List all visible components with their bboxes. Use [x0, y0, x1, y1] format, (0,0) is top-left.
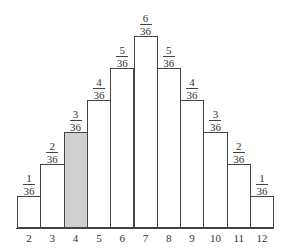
- fraction-numerator: 4: [87, 77, 111, 87]
- fraction-numerator: 2: [227, 141, 251, 151]
- fraction-numerator: 6: [134, 13, 158, 23]
- bar-value-label: 636: [134, 13, 158, 36]
- fraction-denominator: 36: [227, 154, 251, 164]
- x-axis-line: [16, 228, 274, 229]
- fraction-denominator: 36: [157, 58, 181, 68]
- bar-6: [110, 68, 134, 228]
- bar-10: [203, 132, 227, 228]
- fraction-denominator: 36: [64, 122, 88, 132]
- fraction-denominator: 36: [203, 122, 227, 132]
- fraction-denominator: 36: [180, 90, 204, 100]
- fraction-denominator: 36: [110, 58, 134, 68]
- fraction-numerator: 1: [17, 173, 41, 183]
- fraction-numerator: 4: [180, 77, 204, 87]
- bar-4: [64, 132, 88, 228]
- x-tick-label: 9: [180, 232, 204, 244]
- bar-11: [227, 164, 251, 228]
- fraction-numerator: 1: [250, 173, 274, 183]
- bar-value-label: 536: [110, 45, 134, 68]
- bar-value-label: 136: [250, 173, 274, 196]
- x-tick-label: 7: [134, 232, 158, 244]
- fraction-denominator: 36: [17, 186, 41, 196]
- bar-value-label: 236: [40, 141, 64, 164]
- bar-value-label: 236: [227, 141, 251, 164]
- bar-value-label: 336: [203, 109, 227, 132]
- fraction-numerator: 2: [40, 141, 64, 151]
- x-tick-label: 12: [250, 232, 274, 244]
- x-tick-label: 8: [157, 232, 181, 244]
- fraction-denominator: 36: [40, 154, 64, 164]
- bar-2: [17, 196, 41, 228]
- fraction-denominator: 36: [250, 186, 274, 196]
- fraction-denominator: 36: [134, 26, 158, 36]
- fraction-denominator: 36: [87, 90, 111, 100]
- bar-value-label: 536: [157, 45, 181, 68]
- bar-7: [134, 36, 158, 228]
- bar-value-label: 436: [87, 77, 111, 100]
- fraction-numerator: 5: [157, 45, 181, 55]
- bar-5: [87, 100, 111, 228]
- x-tick-label: 11: [227, 232, 251, 244]
- x-tick-label: 5: [87, 232, 111, 244]
- bar-value-label: 136: [17, 173, 41, 196]
- fraction-numerator: 3: [64, 109, 88, 119]
- bar-9: [180, 100, 204, 228]
- bar-value-label: 436: [180, 77, 204, 100]
- probability-histogram: 1362236333644365536663675368436933610236…: [0, 0, 288, 248]
- x-tick-label: 4: [64, 232, 88, 244]
- x-tick-label: 3: [40, 232, 64, 244]
- bar-3: [40, 164, 64, 228]
- x-tick-label: 2: [17, 232, 41, 244]
- x-tick-label: 10: [203, 232, 227, 244]
- bar-value-label: 336: [64, 109, 88, 132]
- x-tick-label: 6: [110, 232, 134, 244]
- bar-12: [250, 196, 274, 228]
- fraction-numerator: 3: [203, 109, 227, 119]
- fraction-numerator: 5: [110, 45, 134, 55]
- bar-8: [157, 68, 181, 228]
